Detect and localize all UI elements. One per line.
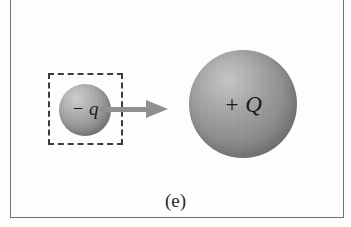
figure-caption: (e) <box>0 190 351 212</box>
physics-figure: − q + Q (e) <box>0 0 351 227</box>
motion-arrow-head <box>146 100 168 118</box>
motion-arrow-shaft <box>100 107 148 112</box>
large-charge-label: + Q <box>189 93 297 116</box>
